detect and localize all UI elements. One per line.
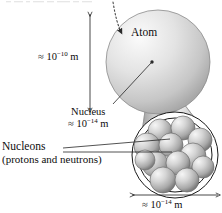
atom-sphere bbox=[106, 10, 210, 114]
diagram-canvas bbox=[0, 0, 222, 213]
atomic-structure-diagram: Atom ≈ 10−10 m Nucleus ≈ 10−14 m Nucleon… bbox=[0, 0, 222, 213]
atom-diameter-prefix: ≈ 10 bbox=[38, 51, 57, 62]
atom-diameter-label: ≈ 10−10 m bbox=[38, 51, 79, 63]
atom-diameter-exponent: −10 bbox=[57, 50, 68, 57]
nucleus-diameter-prefix: ≈ 10 bbox=[68, 118, 87, 129]
nucleus-scale-exponent: −14 bbox=[161, 198, 172, 205]
nucleus-scale-prefix: ≈ 10 bbox=[142, 199, 161, 210]
nucleus-scale-label: ≈ 10−14 m bbox=[142, 199, 183, 211]
nucleus-diameter-unit: m bbox=[98, 118, 109, 129]
atom-label: Atom bbox=[131, 26, 157, 39]
nucleons-label: Nucleons (protons and neutrons) bbox=[2, 140, 102, 165]
nucleus-label: Nucleus ≈ 10−14 m bbox=[68, 106, 109, 130]
nucleus-diameter-exponent: −14 bbox=[87, 116, 98, 123]
nucleon-sphere bbox=[175, 168, 199, 192]
atom-diameter-unit: m bbox=[68, 51, 79, 62]
nucleons-sublabel: (protons and neutrons) bbox=[2, 153, 102, 165]
nucleus-diameter-label: ≈ 10−14 m bbox=[68, 118, 109, 130]
nucleus-scale-unit: m bbox=[172, 199, 183, 210]
nucleons-label-text: Nucleons bbox=[2, 140, 45, 152]
nucleon-sphere bbox=[150, 167, 176, 193]
cropped-caption-remnant bbox=[6, 1, 92, 2]
nucleon-sphere bbox=[135, 150, 155, 170]
